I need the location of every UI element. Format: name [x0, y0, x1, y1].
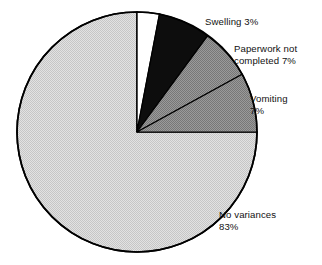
pie-label-paperwork: Paperwork not completed 7%	[234, 43, 297, 66]
pie-chart: Swelling 3% Paperwork not completed 7% V…	[0, 0, 322, 265]
pie-label-no-variances-line1: No variances	[219, 209, 276, 221]
pie-label-no-variances: No variances 83%	[219, 209, 276, 232]
pie-label-vomiting-line1: Vomiting	[250, 93, 288, 105]
pie-label-vomiting: Vomiting 7%	[250, 93, 288, 116]
pie-label-no-variances-line2: 83%	[219, 221, 276, 233]
pie-label-vomiting-line2: 7%	[250, 105, 288, 117]
pie-label-swelling: Swelling 3%	[205, 16, 258, 28]
pie-label-swelling-line1: Swelling 3%	[205, 16, 258, 28]
pie-label-paperwork-line1: Paperwork not	[234, 43, 297, 55]
pie-label-paperwork-line2: completed 7%	[234, 55, 297, 67]
